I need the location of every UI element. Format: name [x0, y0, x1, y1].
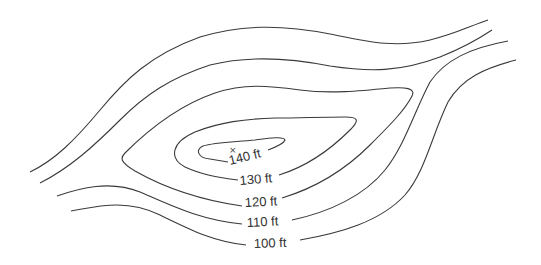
- label-120: 120 ft: [244, 193, 278, 210]
- contour-line-outer-second: [40, 30, 492, 183]
- contour-line-120: [122, 86, 413, 206]
- contour-line-100-right: [300, 60, 516, 240]
- label-130: 130 ft: [239, 170, 273, 188]
- label-100: 100 ft: [254, 235, 287, 251]
- contour-line-110-left: [57, 186, 242, 224]
- contour-line-100-left: [71, 205, 246, 245]
- contour-map: × 140 ft 130 ft 120 ft 110 ft 100 ft: [0, 0, 541, 265]
- label-110: 110 ft: [246, 213, 279, 230]
